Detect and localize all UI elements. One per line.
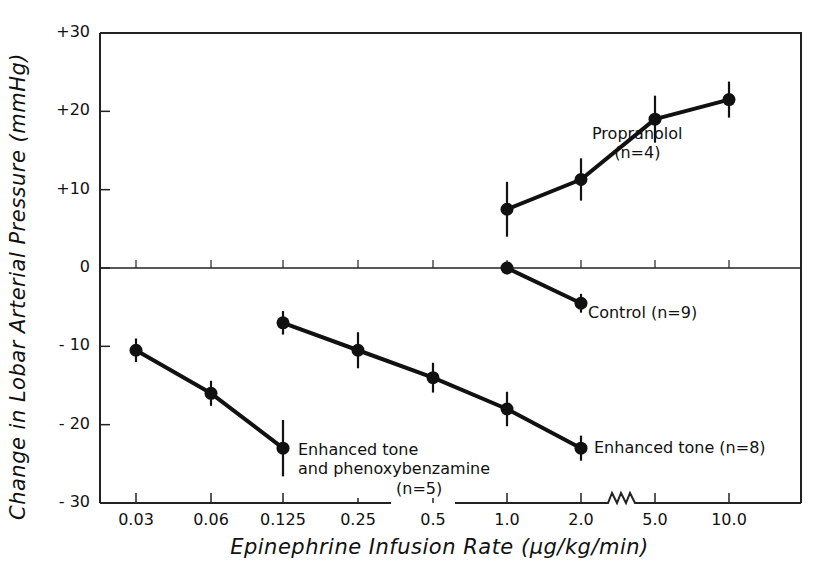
- annotation-control: Control (n=9): [588, 303, 697, 322]
- y-tick-label: - 10: [30, 335, 90, 354]
- annotation-enhanced-tone-phenoxybenzamine: Enhanced tone and phenoxybenzamine (n=5): [298, 440, 490, 498]
- data-point: [501, 262, 514, 275]
- annotation-enhanced-tone: Enhanced tone (n=8): [594, 438, 766, 457]
- data-point: [277, 442, 290, 455]
- y-tick-label: +20: [30, 100, 90, 119]
- annotation-eta-line3: (n=5): [298, 479, 442, 498]
- x-tick-label: 0.5: [420, 510, 445, 529]
- y-tick-label: - 20: [30, 414, 90, 433]
- data-point: [723, 93, 736, 106]
- y-tick-label: +30: [30, 22, 90, 41]
- x-tick-label: 2.0: [568, 510, 593, 529]
- x-tick-label: 0.25: [340, 510, 376, 529]
- annotation-propranolol-name: Propranolol: [592, 124, 683, 143]
- x-tick-label: 0.125: [260, 510, 306, 529]
- x-tick-label: 1.0: [494, 510, 519, 529]
- data-point: [205, 387, 218, 400]
- data-point: [130, 344, 143, 357]
- annotation-propranolol: Propranolol (n=4): [592, 124, 683, 162]
- x-tick-label: 0.06: [193, 510, 229, 529]
- data-point: [501, 203, 514, 216]
- annotation-eta-line2: and phenoxybenzamine: [298, 459, 490, 478]
- x-tick-label: 10.0: [711, 510, 747, 529]
- data-point: [277, 316, 290, 329]
- data-point: [575, 442, 588, 455]
- data-point: [575, 173, 588, 186]
- series-line: [507, 268, 581, 303]
- x-axis-label: Epinephrine Infusion Rate (µg/kg/min): [0, 535, 819, 559]
- data-point: [352, 344, 365, 357]
- y-tick-label: +10: [30, 179, 90, 198]
- data-point: [501, 403, 514, 416]
- y-tick-label: 0: [30, 257, 90, 276]
- data-point: [575, 297, 588, 310]
- data-point: [427, 371, 440, 384]
- annotation-propranolol-n: (n=4): [592, 143, 683, 162]
- x-tick-label: 0.03: [118, 510, 154, 529]
- x-tick-label: 5.0: [642, 510, 667, 529]
- annotation-eta-line1: Enhanced tone: [298, 440, 490, 459]
- y-axis-label: Change in Lobar Arterial Pressure (mmHg): [6, 53, 30, 520]
- y-tick-label: - 30: [30, 492, 90, 511]
